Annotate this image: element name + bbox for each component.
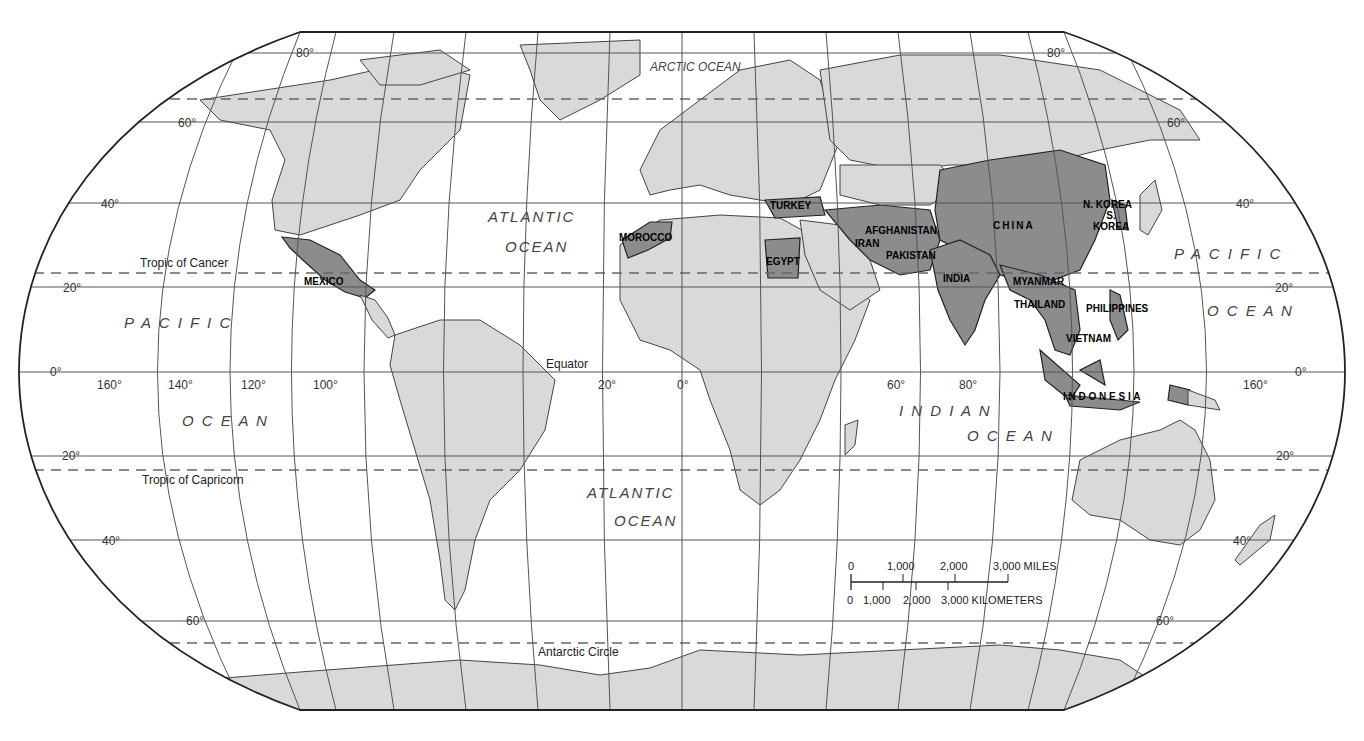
- label-antarctic-circle: Antarctic Circle: [538, 645, 619, 659]
- label-pakistan: PAKISTAN: [886, 250, 936, 261]
- lat-40n-left: 40°: [101, 197, 119, 211]
- country-india: [930, 240, 1000, 345]
- label-arctic-ocean: ARCTIC OCEAN: [650, 60, 741, 74]
- label-indian-2: O C E A N: [967, 427, 1054, 444]
- lon-140w: 140°: [168, 378, 193, 392]
- lon-120w: 120°: [241, 378, 266, 392]
- label-myanmar: MYANMAR: [1013, 276, 1064, 287]
- lon-80e: 80°: [959, 378, 977, 392]
- lat-20n-left: 20°: [63, 281, 81, 295]
- label-atlantic-south-1: ATLANTIC: [587, 484, 674, 501]
- label-atlantic-north-1: ATLANTIC: [488, 208, 575, 225]
- label-pacific-west-2: O C E A N: [182, 412, 269, 429]
- scale-miles-0: 0: [848, 560, 854, 572]
- lat-80n-right: 80°: [1047, 46, 1065, 60]
- scale-miles-3000: 3,000 MILES: [993, 560, 1057, 572]
- scale-km-0: 0: [847, 594, 853, 606]
- label-pacific-east-1: P A C I F I C: [1174, 245, 1282, 262]
- lat-80n-left: 80°: [296, 46, 314, 60]
- lon-160w: 160°: [97, 378, 122, 392]
- world-map: [0, 0, 1364, 741]
- lat-60s-right: 60°: [1156, 614, 1174, 628]
- label-tropic-of-capricorn: Tropic of Capricorn: [142, 473, 244, 487]
- label-indian-1: I N D I A N: [899, 402, 992, 419]
- lat-20n-right: 20°: [1275, 281, 1293, 295]
- lon-160e: 160°: [1243, 378, 1268, 392]
- lat-40n-right: 40°: [1236, 197, 1254, 211]
- scale-miles-1000: 1,000: [887, 560, 915, 572]
- label-afghanistan: AFGHANISTAN: [865, 225, 937, 236]
- scale-km-1000: 1,000: [863, 594, 891, 606]
- scale-km-3000: 3,000 KILOMETERS: [941, 594, 1043, 606]
- lat-60n-right: 60°: [1167, 116, 1185, 130]
- label-india: INDIA: [943, 273, 970, 284]
- label-north-korea: N. KOREA: [1083, 199, 1132, 210]
- label-thailand: THAILAND: [1014, 299, 1065, 310]
- lat-20s-right: 20°: [1276, 449, 1294, 463]
- lat-equator-left: 0°: [50, 365, 61, 379]
- lon-60e: 60°: [887, 378, 905, 392]
- lon-20w: 20°: [598, 378, 616, 392]
- label-china: CHINA: [993, 220, 1035, 231]
- country-philippines: [1110, 290, 1128, 340]
- label-pacific-west-1: P A C I F I C: [124, 314, 232, 331]
- label-turkey: TURKEY: [770, 200, 811, 211]
- lat-40s-right: 40°: [1233, 534, 1251, 548]
- scale-miles-2000: 2,000: [940, 560, 968, 572]
- lat-60n-left: 60°: [178, 116, 196, 130]
- label-morocco: MOROCCO: [619, 232, 672, 243]
- label-iran: IRAN: [855, 238, 879, 249]
- label-mexico: MEXICO: [304, 276, 343, 287]
- lat-20s-left: 20°: [62, 449, 80, 463]
- lat-equator-right: 0°: [1295, 365, 1306, 379]
- lat-60s-left: 60°: [186, 614, 204, 628]
- label-indonesia: I N D O N E S I A: [1063, 391, 1140, 402]
- label-equator: Equator: [546, 357, 588, 371]
- scale-km-2000: 2,000: [903, 594, 931, 606]
- label-egypt: EGYPT: [766, 256, 800, 267]
- label-vietnam: VIETNAM: [1066, 333, 1111, 344]
- scale-bar-lines: [851, 574, 1008, 590]
- label-atlantic-south-2: OCEAN: [614, 512, 677, 529]
- label-pacific-east-2: O C E A N: [1207, 302, 1294, 319]
- label-tropic-of-cancer: Tropic of Cancer: [140, 256, 228, 270]
- label-philippines: PHILIPPINES: [1086, 303, 1148, 314]
- lat-40s-left: 40°: [102, 534, 120, 548]
- lon-0: 0°: [677, 378, 688, 392]
- label-south-korea: S. KOREA: [1093, 210, 1129, 232]
- lon-100w: 100°: [313, 378, 338, 392]
- label-atlantic-north-2: OCEAN: [505, 238, 568, 255]
